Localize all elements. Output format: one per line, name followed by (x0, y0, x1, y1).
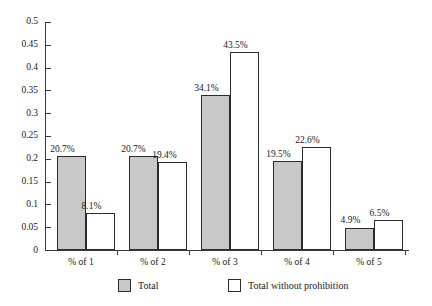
data-label-total-3: 34.1% (186, 84, 227, 94)
legend-label-nopro: Total without prohibition (248, 281, 348, 291)
x-tick-label-1: % of 1 (45, 258, 117, 268)
y-axis-tick-labels: 0.5 0.45 0.4 0.35 0.3 0.25 0.2 0.15 0.1 … (0, 0, 41, 306)
y-tick-label: 0 (0, 246, 38, 256)
chart-legend: Total Total without prohibition (0, 277, 432, 299)
y-tick-label: 0.5 (0, 17, 38, 27)
x-axis-tick (333, 250, 334, 255)
bar-nopro-3 (230, 52, 259, 250)
y-tick-label: 0.3 (0, 109, 38, 119)
y-tick-label: 0.05 (0, 223, 38, 233)
x-axis-line (45, 250, 409, 251)
bar-total-4 (273, 161, 302, 250)
legend-swatch-total-icon (118, 279, 131, 292)
x-axis-tick (405, 250, 406, 255)
bar-total-5 (345, 228, 374, 250)
x-tick-label-2: % of 2 (117, 258, 189, 268)
y-tick-label: 0.1 (0, 200, 38, 210)
data-label-nopro-4: 22.6% (287, 136, 328, 146)
bar-nopro-1 (86, 213, 115, 250)
x-axis-tick (117, 250, 118, 255)
y-tick-label: 0.2 (0, 154, 38, 164)
bar-nopro-5 (374, 220, 403, 250)
y-tick-label: 0.35 (0, 86, 38, 96)
data-label-nopro-5: 6.5% (359, 209, 400, 219)
y-tick-label: 0.4 (0, 63, 38, 73)
bar-total-2 (129, 156, 158, 250)
y-tick-label: 0.45 (0, 40, 38, 50)
bar-chart: 0.5 0.45 0.4 0.35 0.3 0.25 0.2 0.15 0.1 … (0, 0, 432, 306)
data-label-total-1: 20.7% (42, 145, 83, 155)
legend-label-total: Total (138, 281, 158, 291)
y-tick-label: 0.15 (0, 177, 38, 187)
data-label-total-4: 19.5% (258, 150, 299, 160)
data-label-nopro-3: 43.5% (215, 41, 256, 51)
x-tick-label-4: % of 4 (261, 258, 333, 268)
bar-nopro-4 (302, 147, 331, 250)
y-axis-tick (45, 250, 51, 251)
x-tick-label-3: % of 3 (189, 258, 261, 268)
legend-item-nopro: Total without prohibition (228, 279, 348, 292)
legend-item-total: Total (118, 279, 158, 292)
data-label-nopro-2: 19.4% (144, 151, 185, 161)
data-label-nopro-1: 8.1% (71, 202, 112, 212)
y-tick-label: 0.25 (0, 131, 38, 141)
x-tick-label-5: % of 5 (333, 258, 405, 268)
legend-swatch-nopro-icon (228, 279, 241, 292)
x-axis-tick (261, 250, 262, 255)
bar-total-3 (201, 95, 230, 251)
bar-nopro-2 (158, 162, 187, 251)
x-axis-tick (189, 250, 190, 255)
